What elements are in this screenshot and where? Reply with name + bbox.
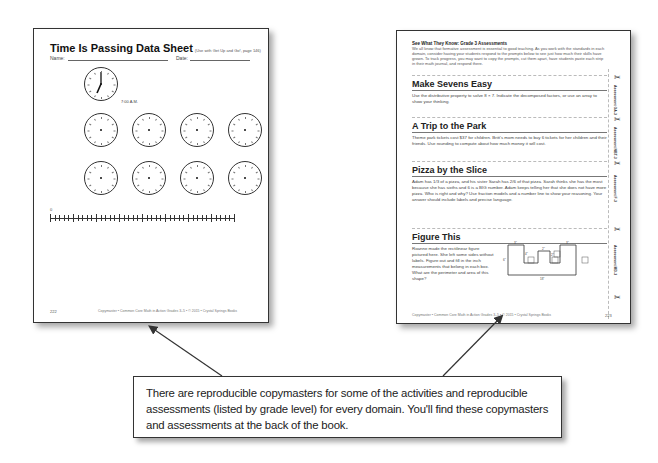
callout-text: There are reproducible copymasters for s…	[146, 385, 549, 433]
arrow-to-right-page	[443, 318, 500, 376]
arrow-to-left-page	[152, 328, 222, 376]
callout-box: There are reproducible copymasters for s…	[133, 376, 562, 438]
